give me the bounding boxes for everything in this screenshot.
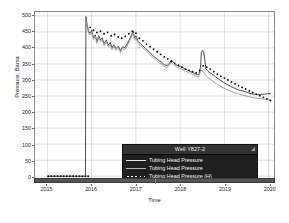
y-tick-label: 0 [1, 174, 31, 180]
y-tick-label: 450 [1, 28, 31, 34]
y-tick-label: 300 [1, 77, 31, 83]
x-tick-label: 2015 [26, 186, 66, 192]
legend-swatch-mark [126, 160, 146, 161]
y-tick-label: 150 [1, 125, 31, 131]
chart-figure: Pressure, Barsa 050100150200250300350400… [0, 0, 289, 223]
range-scrollbar-handle[interactable] [155, 179, 156, 184]
y-tick-label: 250 [1, 93, 31, 99]
legend-line-swatch-icon [126, 157, 146, 164]
y-tick-label: 350 [1, 61, 31, 67]
legend-entry-label: Tubing Head Pressure [149, 157, 203, 163]
y-tick-label: 50 [1, 158, 31, 164]
y-tick-label: 500 [1, 12, 31, 18]
x-tick-label: 2017 [116, 186, 156, 192]
x-tick-label: 2016 [71, 186, 111, 192]
legend-swatch-mark [126, 168, 146, 169]
legend-entry[interactable]: Tubing Head Pressure [123, 164, 257, 172]
legend-line-swatch-icon [126, 165, 146, 172]
legend-entry[interactable]: Tubing Head Pressure [123, 156, 257, 164]
y-tick-label: 200 [1, 109, 31, 115]
y-tick-label: 400 [1, 44, 31, 50]
legend-entry-label: Tubing Head Pressure [149, 165, 203, 171]
x-tick-label: 2019 [205, 186, 245, 192]
x-axis-tick-labels: 201520162017201820192020 [34, 186, 275, 196]
legend-title: Well Y827-2 [123, 146, 257, 152]
legend-header[interactable]: Well Y827-2 [123, 145, 257, 155]
y-axis-tick-labels: 050100150200250300350400450500 [0, 11, 31, 183]
time-range-scrollbar[interactable] [34, 178, 275, 183]
x-tick-label: 2020 [250, 186, 289, 192]
x-tick-label: 2018 [160, 186, 200, 192]
legend-swatch-mark [127, 176, 145, 178]
y-tick-label: 100 [1, 142, 31, 148]
x-axis-title: Time [34, 197, 275, 203]
